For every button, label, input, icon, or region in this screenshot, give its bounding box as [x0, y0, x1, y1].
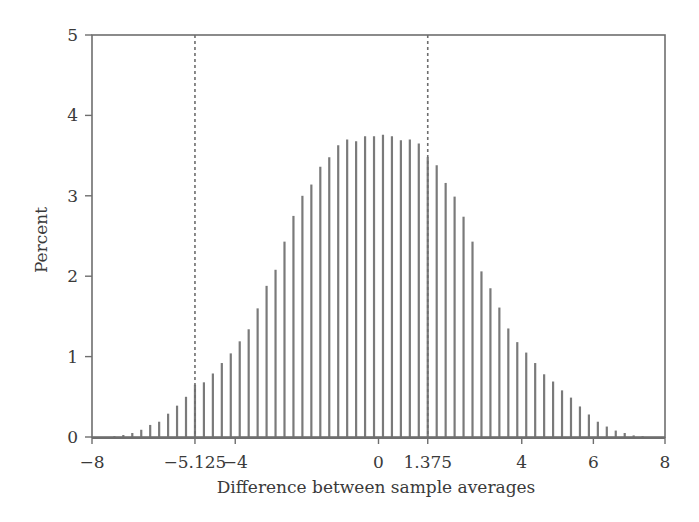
y-tick-label: 0: [67, 427, 78, 447]
y-tick-label: 3: [67, 186, 78, 206]
x-tick-label: −5.125: [164, 452, 227, 472]
x-tick-label: 4: [516, 452, 527, 472]
x-tick-label: 8: [660, 452, 671, 472]
x-axis-label: Difference between sample averages: [217, 477, 536, 497]
y-axis-label: Percent: [31, 207, 51, 273]
y-tick-label: 1: [67, 347, 78, 367]
y-tick-label: 2: [67, 266, 78, 286]
bars: [114, 135, 642, 437]
y-tick-label: 4: [67, 105, 78, 125]
x-tick-label: −4: [223, 452, 248, 472]
y-tick-label: 5: [67, 25, 78, 45]
x-axis-ticks: −8−5.125−401.375468: [79, 437, 670, 472]
x-tick-label: 0: [373, 452, 384, 472]
plot-frame: [92, 35, 665, 438]
x-tick-label: −8: [79, 452, 104, 472]
chart-container: −8−5.125−401.375468 012345 Difference be…: [0, 0, 699, 522]
x-tick-label: 1.375: [403, 452, 452, 472]
histogram-chart: −8−5.125−401.375468 012345 Difference be…: [0, 0, 699, 522]
y-axis-ticks: 012345: [67, 25, 92, 447]
x-tick-label: 6: [588, 452, 599, 472]
plot-border: [92, 35, 665, 437]
